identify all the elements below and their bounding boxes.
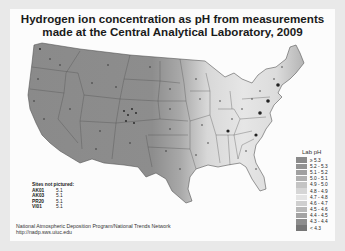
- legend-swatch: [296, 182, 307, 187]
- legend-swatch: [296, 176, 307, 181]
- map-panel: Hydrogen ion concentration as pH from me…: [10, 9, 335, 241]
- legend-swatch: [296, 207, 307, 212]
- legend-swatch: [296, 201, 307, 206]
- legend-swatch: [296, 188, 307, 193]
- legend-swatch: [296, 225, 307, 230]
- sites-not-pictured: Sites not pictured: AK015.1 AK035.1 PR20…: [32, 182, 74, 210]
- legend-swatch: [296, 170, 307, 175]
- legend-swatch: [296, 157, 307, 162]
- credit-url: http://nadp.sws.uiuc.edu: [16, 229, 171, 235]
- title-line-1: Hydrogen ion concentration as pH from me…: [10, 12, 335, 25]
- legend-swatch: [296, 213, 307, 218]
- ph-legend: Lab pH ≥ 5.3 5.2 - 5.3 5.1 - 5.2 5.0 - 5…: [296, 149, 338, 231]
- title-line-2: made at the Central Analytical Laborator…: [10, 25, 335, 38]
- map-title: Hydrogen ion concentration as pH from me…: [10, 12, 335, 38]
- legend-title: Lab pH: [296, 149, 338, 155]
- source-credit: National Atmospheric Deposition Program/…: [16, 223, 171, 235]
- contiguous-us-shape: [28, 43, 304, 203]
- site-row: VI015.1: [32, 204, 74, 210]
- legend-swatch: [296, 164, 307, 169]
- legend-swatch: [296, 195, 307, 200]
- legend-item: < 4.3: [296, 225, 338, 231]
- legend-swatch: [296, 219, 307, 224]
